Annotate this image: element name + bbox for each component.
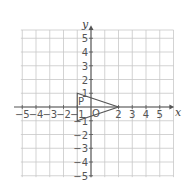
y-tick-label: 3 bbox=[82, 61, 88, 72]
y-tick-label: 5 bbox=[82, 33, 88, 44]
y-tick-label: −4 bbox=[73, 157, 88, 168]
y-tick-label: −5 bbox=[73, 171, 88, 182]
y-tick-label: −3 bbox=[73, 143, 88, 154]
y-tick-label: 4 bbox=[82, 47, 88, 58]
y-axis-label: y bbox=[81, 18, 89, 31]
x-tick-label: −4 bbox=[29, 109, 44, 120]
x-tick-label: 2 bbox=[115, 109, 121, 120]
y-tick-label: −2 bbox=[73, 130, 88, 141]
x-tick-label: −3 bbox=[42, 109, 57, 120]
shape-label: P bbox=[78, 96, 84, 107]
x-tick-label: −2 bbox=[56, 109, 71, 120]
x-axis-label: x bbox=[175, 106, 182, 119]
y-tick-label: 2 bbox=[82, 75, 88, 86]
y-axis-arrow-icon bbox=[89, 25, 94, 30]
coordinate-plane: xy −5−4−3−2−1234554321−1−2−3−4−5O P bbox=[0, 0, 184, 194]
axes: xy bbox=[14, 18, 182, 177]
x-tick-label: 5 bbox=[157, 109, 163, 120]
grid-lines bbox=[21, 30, 174, 177]
x-tick-label: 3 bbox=[129, 109, 135, 120]
x-tick-label: 4 bbox=[143, 109, 149, 120]
x-tick-label: −5 bbox=[15, 109, 30, 120]
